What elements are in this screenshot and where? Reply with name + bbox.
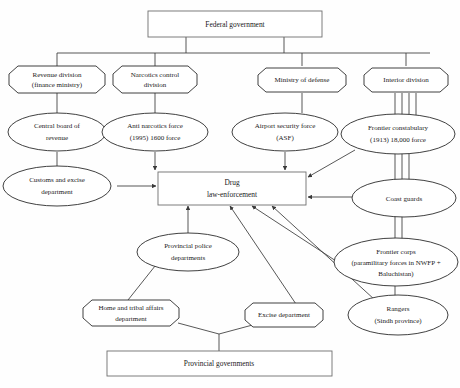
anti-narcotics-force-label-line1: Anti narcotics force [127, 122, 183, 130]
node-rangers[interactable]: Rangers (Sindh province) [348, 295, 448, 335]
anti-narcotics-force-ellipse [102, 113, 208, 151]
airport-security-force-ellipse [232, 113, 338, 151]
frontier-corps-label-line3: Baluchistan) [378, 270, 414, 278]
anti-narcotics-force-label-line2: (1995) 1600 force [130, 134, 181, 142]
node-anti-narcotics-force[interactable]: Anti narcotics force (1995) 1600 force [102, 113, 208, 151]
frontier-constabulary-label-line1: Frontier constabulary [368, 124, 429, 132]
node-interior-division[interactable]: Interior division [364, 68, 448, 92]
edge-frontier-constabulary-to-drug-law-enforcement [308, 150, 355, 177]
frontier-corps-label-line1: Frontier corps [376, 248, 416, 256]
federal-government-label: Federal government [205, 20, 265, 29]
central-board-of-revenue-label-line2: revenue [46, 134, 68, 142]
provincial-police-departments-label-line2: departments [171, 254, 205, 262]
node-coast-guards[interactable]: Coast guards [352, 179, 456, 217]
node-narcotics-control-division[interactable]: Narcotics control division [113, 66, 197, 93]
node-home-and-tribal-affairs-department[interactable]: Home and tribal affairs department [83, 300, 179, 326]
node-revenue-division[interactable]: Revenue division (finance ministry) [9, 66, 105, 93]
node-excise-department[interactable]: Excise department [245, 303, 323, 327]
node-provincial-police-departments[interactable]: Provincial police departments [137, 233, 239, 271]
airport-security-force-label-line1: Airport security force [255, 122, 316, 130]
rangers-label-line1: Rangers [387, 305, 410, 313]
node-frontier-constabulary[interactable]: Frontier constabulary (1913) 18,000 forc… [341, 114, 455, 154]
customs-and-excise-department-label-line1: Customs and excise [29, 176, 85, 184]
provincial-governments-label: Provincial governments [184, 359, 255, 368]
node-ministry-of-defense[interactable]: Ministry of defense [258, 68, 346, 92]
interior-division-label: Interior division [383, 76, 429, 84]
flowchart-canvas: Federal government Revenue division (fin… [0, 0, 460, 388]
node-frontier-corps[interactable]: Frontier corps (paramilitary forces in N… [334, 238, 458, 286]
rangers-label-line2: (Sindh province) [374, 317, 422, 325]
frontier-constabulary-ellipse [341, 114, 455, 154]
node-federal-government[interactable]: Federal government [148, 11, 322, 37]
ministry-of-defense-label: Ministry of defense [275, 76, 330, 84]
edge-home-tribal-to-provincial-governments [178, 323, 219, 334]
organizational-flow-diagram: Federal government Revenue division (fin… [0, 0, 460, 388]
customs-and-excise-department-ellipse [3, 166, 111, 206]
narcotics-control-division-label-line2: division [144, 81, 167, 89]
provincial-police-departments-label-line1: Provincial police [164, 242, 212, 250]
drug-law-enforcement-label-line2: law-enforcement [207, 190, 258, 199]
node-customs-and-excise-department[interactable]: Customs and excise department [3, 166, 111, 206]
revenue-division-label-line1: Revenue division [33, 71, 82, 79]
node-provincial-governments[interactable]: Provincial governments [107, 351, 332, 376]
central-board-of-revenue-ellipse [8, 113, 106, 151]
rangers-ellipse [348, 295, 448, 335]
provincial-police-departments-ellipse [137, 233, 239, 271]
airport-security-force-label-line2: (ASF) [276, 134, 294, 142]
home-and-tribal-affairs-department-label-line1: Home and tribal affairs [99, 304, 164, 312]
frontier-constabulary-label-line2: (1913) 18,000 force [370, 136, 426, 144]
excise-department-label: Excise department [258, 311, 310, 319]
home-and-tribal-affairs-department-label-line2: department [115, 315, 147, 323]
coast-guards-label: Coast guards [386, 195, 423, 203]
node-airport-security-force[interactable]: Airport security force (ASF) [232, 113, 338, 151]
node-central-board-of-revenue[interactable]: Central board of revenue [8, 113, 106, 151]
frontier-corps-label-line2: (paramilitary forces in NWFP + [351, 259, 440, 267]
node-drug-law-enforcement[interactable]: Drug law-enforcement [158, 172, 306, 205]
central-board-of-revenue-label-line1: Central board of [34, 122, 81, 130]
revenue-division-label-line2: (finance ministry) [32, 81, 83, 89]
drug-law-enforcement-label-line1: Drug [224, 178, 239, 187]
narcotics-control-division-label-line1: Narcotics control [131, 71, 179, 79]
customs-and-excise-department-label-line2: department [41, 188, 73, 196]
